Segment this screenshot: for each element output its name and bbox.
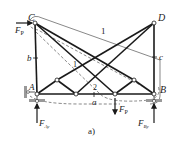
member-A-node1 [37,80,57,94]
member-CA [35,23,37,94]
member-n4-n3 [115,80,134,94]
joint-A [35,92,39,96]
label-dim-a: a [92,97,97,107]
label-A: A [28,82,35,92]
member-node1-D [57,23,154,80]
label-dim-b: b [27,53,32,63]
joint-D [152,21,156,25]
label-FP-horizontal: FP [14,25,25,36]
label-FAy: FAy [38,118,50,129]
label-FBy: FBy [137,118,150,129]
label-dim-c: c [159,52,163,62]
label-FP-vertical: FP [118,104,129,115]
label-C: C [28,12,35,23]
member-node1-n2 [57,80,76,94]
section-1-cut-lower [30,22,142,86]
member-n4-B [134,80,154,94]
joint-n3 [113,92,117,96]
label-section-2: 2 [93,83,97,92]
support-B [146,96,162,103]
label-B: B [160,84,166,95]
label-section-1-inner: 1 [73,60,77,69]
figure-caption: a) [88,126,95,136]
section-2-cut [36,32,159,101]
joint-n2 [74,92,78,96]
truss-diagram: C D A B b c a 1 1 2 FP FP FAy FBy a) [0,0,179,142]
joint-B [152,92,156,96]
member-C-n4 [35,23,134,80]
member-n2-D [76,23,154,94]
joint-n1 [55,78,59,82]
joint-n4 [132,78,136,82]
label-section-1: 1 [101,26,106,36]
label-D: D [157,12,166,23]
